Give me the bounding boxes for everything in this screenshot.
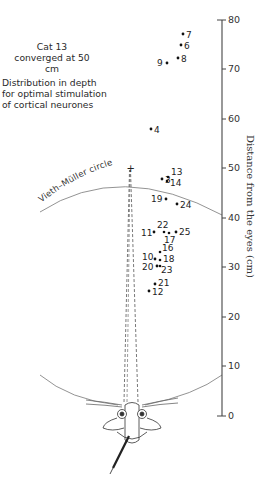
tick-60: 60 — [228, 113, 240, 124]
svg-text:14: 14 — [170, 178, 182, 188]
fixation-point-icon: + — [127, 163, 135, 174]
point-9 — [166, 62, 169, 65]
point-4 — [150, 128, 153, 131]
point-18 — [159, 259, 162, 262]
point-20 — [156, 265, 159, 268]
recording-electrode-icon — [110, 436, 129, 474]
svg-text:7: 7 — [186, 30, 192, 40]
point-3 — [161, 178, 164, 181]
tick-70: 70 — [228, 63, 240, 74]
depth-diagram: Vieth–Müller circle + 80 70 60 50 40 30 … — [0, 0, 272, 479]
vieth-muller-circle-lower-left — [40, 375, 118, 405]
tick-30: 30 — [228, 261, 240, 272]
vieth-muller-label: Vieth–Müller circle — [36, 157, 113, 204]
svg-text:6: 6 — [184, 41, 190, 51]
point-12 — [148, 290, 151, 293]
svg-text:4: 4 — [154, 125, 160, 135]
svg-text:16: 16 — [162, 243, 174, 253]
svg-text:23: 23 — [161, 265, 172, 275]
point-19 — [165, 198, 168, 201]
point-11 — [153, 231, 156, 234]
point-13 — [167, 176, 170, 179]
line-of-sight-right — [131, 170, 139, 402]
y-axis-label: Distance from the eyes (cm) — [245, 135, 256, 278]
tick-10: 10 — [228, 360, 240, 371]
svg-text:9: 9 — [157, 58, 163, 68]
point-8 — [177, 57, 180, 60]
point-24 — [176, 203, 179, 206]
tick-0: 0 — [228, 410, 234, 421]
point-7 — [182, 33, 185, 36]
svg-text:11: 11 — [141, 228, 152, 238]
tick-80: 80 — [228, 14, 240, 25]
cat-head-icon — [86, 398, 178, 443]
point-14 — [166, 180, 169, 183]
point-16 — [159, 251, 162, 254]
point-21 — [154, 283, 157, 286]
point-25 — [175, 231, 178, 234]
svg-text:8: 8 — [181, 54, 187, 64]
tick-20: 20 — [228, 311, 240, 322]
svg-text:13: 13 — [171, 167, 182, 177]
tick-50: 50 — [228, 162, 240, 173]
vieth-muller-circle-lower-right — [145, 375, 222, 405]
point-10 — [154, 258, 157, 261]
svg-text:10: 10 — [142, 252, 154, 262]
point-17 — [168, 232, 171, 235]
svg-text:22: 22 — [157, 220, 168, 230]
svg-text:19: 19 — [151, 194, 163, 204]
data-points: 7 6 8 9 4 3 13 14 19 24 22 11 17 25 16 1… — [141, 30, 192, 297]
svg-text:25: 25 — [179, 227, 190, 237]
svg-text:24: 24 — [180, 200, 192, 210]
tick-40: 40 — [228, 212, 240, 223]
point-6 — [180, 44, 183, 47]
svg-text:20: 20 — [142, 262, 154, 272]
distance-axis: 80 70 60 50 40 30 20 10 0 Distance from … — [217, 14, 256, 421]
point-22 — [163, 231, 166, 234]
svg-text:12: 12 — [152, 287, 163, 297]
svg-text:18: 18 — [163, 254, 175, 264]
